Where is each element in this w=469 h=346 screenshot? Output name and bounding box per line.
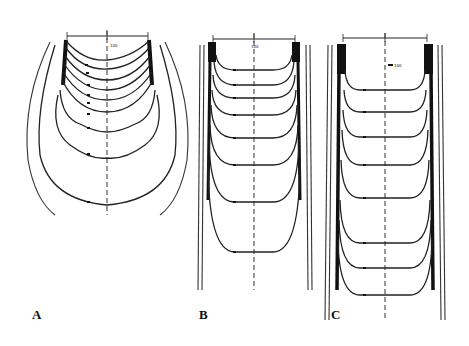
panel-a-diagram: 100 (27, 30, 188, 215)
panel-b-label: B (199, 307, 208, 323)
panel-c-iso-100: 100 (394, 63, 402, 68)
panel-b-diagram: 100 (198, 33, 312, 290)
panel-c-label: C (331, 307, 340, 323)
panel-a-iso-100: 100 (110, 43, 118, 48)
isodose-figure: 100 10 (0, 0, 469, 346)
panel-a-label: A (32, 307, 41, 323)
panel-c-diagram: 100 (325, 33, 445, 320)
panel-b-iso-100: 100 (251, 44, 259, 49)
